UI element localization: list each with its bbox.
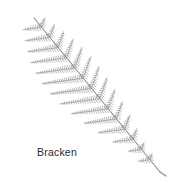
fern-label: Bracken	[37, 146, 77, 158]
fern-frond-icon	[0, 0, 183, 183]
fern-illustration: Bracken	[0, 0, 183, 183]
